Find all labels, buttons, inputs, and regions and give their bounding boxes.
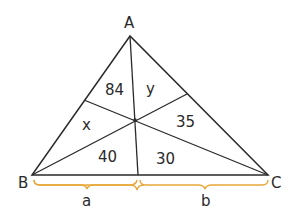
region-30: 30 [156,150,175,168]
vertex-a-label: A [124,14,135,32]
vertex-c-label: C [271,174,281,192]
segment-a-label: a [82,192,91,210]
region-84: 84 [105,81,124,99]
brace-b [140,180,268,189]
region-35: 35 [176,113,195,131]
region-x: x [82,116,91,134]
triangle-abc [32,36,268,175]
segment-b-label: b [201,192,211,210]
region-40: 40 [98,148,117,166]
triangle-diagram: A B C 84 y x 35 40 30 a b [0,0,293,215]
cevian-a [130,36,138,175]
intersection-point [133,118,137,122]
region-y: y [146,80,155,98]
vertex-b-label: B [18,174,28,192]
